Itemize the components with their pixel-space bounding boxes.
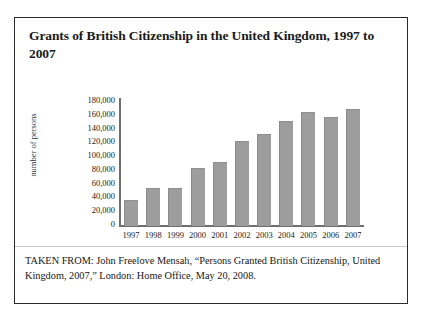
x-axis-tick-label: 2005 [297,231,319,240]
bar-slot [120,98,142,226]
bar-slot [342,98,364,226]
y-axis-tick-label: 100,000 [87,151,115,160]
bar [146,188,160,226]
y-axis-tick-label: 120,000 [87,137,115,146]
y-axis-tick-label: 140,000 [87,123,115,132]
y-axis-tick-label: 0 [111,220,115,229]
bar [191,168,205,226]
bar-slot [142,98,164,226]
x-axis-tick-label: 2002 [231,231,253,240]
x-axis-tick-label: 2007 [342,231,364,240]
bar-slot [209,98,231,226]
bar-slot [320,98,342,226]
bar [301,112,315,226]
bar [235,141,249,226]
bar [324,117,338,227]
x-axis-tick-label: 2003 [253,231,275,240]
x-axis-tick-label: 2004 [275,231,297,240]
x-axis-tick-labels: 1997199819992000200120022003200420052006… [120,231,364,245]
y-axis-tick-label: 80,000 [92,165,115,174]
bar-slot [275,98,297,226]
x-axis-tick-label: 1997 [120,231,142,240]
x-axis-tick-label: 2001 [209,231,231,240]
x-axis-tick-label: 2006 [320,231,342,240]
bar-series [120,98,364,226]
y-axis-tick-labels: 020,00040,00060,00080,000100,000120,0001… [59,100,115,224]
chart-plot-area: number of persons 020,00040,00060,00080,… [15,76,409,256]
y-axis-tick-label: 180,000 [87,96,115,105]
bar [168,188,182,226]
y-axis-tick-label: 40,000 [92,192,115,201]
bar [279,121,293,226]
bar-slot [187,98,209,226]
source-caption: TAKEN FROM: John Freelove Mensah, “Perso… [25,254,395,284]
bar-slot [231,98,253,226]
x-axis-tick-label: 1998 [142,231,164,240]
bar-slot [297,98,319,226]
x-axis-tick-label: 2000 [187,231,209,240]
bar [257,134,271,226]
bar-slot [253,98,275,226]
figure-frame: Grants of British Citizenship in the Uni… [14,17,408,304]
y-axis-tick-label: 160,000 [87,110,115,119]
caption-divider [15,246,407,247]
bar-slot [164,98,186,226]
y-axis-title: number of persons [28,93,38,197]
page-title: Grants of British Citizenship in the Uni… [29,27,379,63]
x-axis-tick-label: 1999 [164,231,186,240]
bar [213,162,227,226]
y-axis-tick-label: 20,000 [92,206,115,215]
bar [346,109,360,226]
bar [124,200,138,226]
y-axis-tick-label: 60,000 [92,178,115,187]
